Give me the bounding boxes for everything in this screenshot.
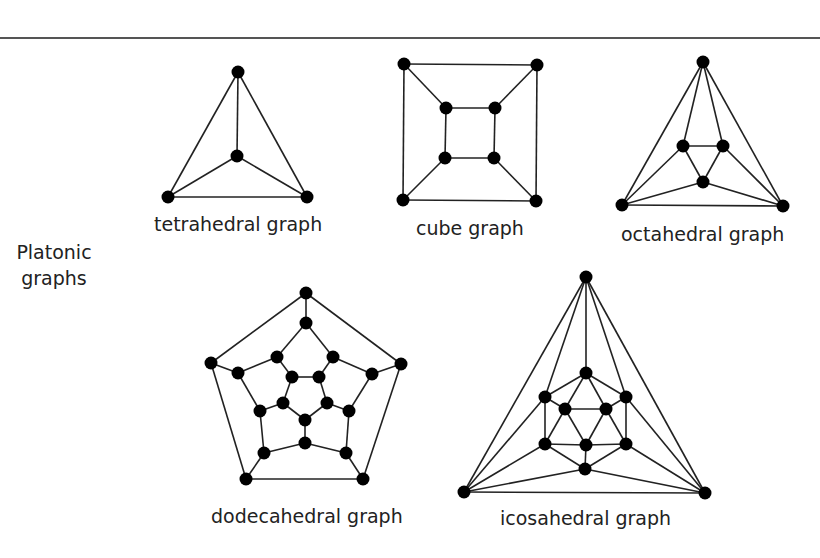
cube-graph-label: cube graph <box>416 217 524 239</box>
graph-node <box>580 367 593 380</box>
graph-node <box>699 487 712 500</box>
graph-edge <box>494 158 536 201</box>
graph-edge <box>494 108 495 158</box>
icosahedral-graph-label: icosahedral graph <box>500 507 671 529</box>
graph-edge <box>238 373 260 411</box>
graph-edge <box>586 277 626 397</box>
octahedral-graph <box>616 56 790 213</box>
graph-node <box>162 191 175 204</box>
graph-node <box>340 447 353 460</box>
graph-edge <box>211 363 246 479</box>
graph-edge <box>703 62 723 146</box>
graph-node <box>539 438 552 451</box>
graph-edge <box>404 64 537 65</box>
graph-edge <box>622 62 703 205</box>
graph-node <box>439 152 452 165</box>
graph-edge <box>363 364 401 479</box>
graph-edge <box>277 323 306 357</box>
graph-edge <box>403 158 445 200</box>
graph-edge <box>495 65 537 108</box>
graph-node <box>717 140 730 153</box>
graph-node <box>205 357 218 370</box>
graph-node <box>343 405 356 418</box>
graph-edge <box>545 444 585 469</box>
graph-edge <box>683 62 703 146</box>
graph-node <box>440 102 453 115</box>
graph-node <box>616 199 629 212</box>
graph-node <box>232 367 245 380</box>
graph-edge <box>464 492 705 493</box>
graph-node <box>300 317 313 330</box>
graph-node <box>395 358 408 371</box>
graph-node <box>488 152 501 165</box>
graph-edge <box>238 72 307 197</box>
graph-node <box>579 463 592 476</box>
graph-node <box>299 437 312 450</box>
graph-edge <box>703 62 783 206</box>
graph-edge <box>211 293 306 363</box>
graph-edge <box>349 374 372 411</box>
graph-edge <box>445 108 446 158</box>
graph-node <box>489 102 502 115</box>
graph-node <box>600 403 613 416</box>
graph-edge <box>168 72 238 197</box>
graph-node <box>300 287 313 300</box>
graph-edge <box>626 397 705 493</box>
graph-node <box>539 391 552 404</box>
graph-node <box>327 351 340 364</box>
graph-node <box>620 438 633 451</box>
dodecahedral-graph-label: dodecahedral graph <box>211 505 403 527</box>
graph-edge <box>536 65 537 201</box>
graph-node <box>231 150 244 163</box>
icosahedral-graph <box>458 271 712 500</box>
graph-node <box>777 200 790 213</box>
tetrahedral-graph <box>162 66 314 204</box>
octahedral-graph-label: octahedral graph <box>621 223 784 245</box>
graph-node <box>620 391 633 404</box>
graph-node <box>357 473 370 486</box>
tetrahedral-graph-label: tetrahedral graph <box>154 213 322 235</box>
graph-node <box>286 371 299 384</box>
graph-node <box>531 59 544 72</box>
graph-node <box>321 397 334 410</box>
graph-node <box>277 397 290 410</box>
graph-node <box>258 447 271 460</box>
graph-edge <box>586 277 705 493</box>
graph-edge <box>464 397 545 492</box>
graph-edge <box>237 72 238 156</box>
graph-edge <box>403 64 404 200</box>
graph-canvas <box>0 0 820 558</box>
graph-node <box>697 56 710 69</box>
graph-node <box>580 271 593 284</box>
graph-node <box>240 473 253 486</box>
dodecahedral-graph <box>205 287 408 486</box>
graph-node <box>232 66 245 79</box>
graph-node <box>458 486 471 499</box>
graph-node <box>366 368 379 381</box>
graph-node <box>677 140 690 153</box>
graph-edge <box>622 205 783 206</box>
cube-graph <box>397 58 544 208</box>
graph-node <box>299 414 312 427</box>
graph-edge <box>404 64 446 108</box>
graph-node <box>397 194 410 207</box>
graph-node <box>313 371 326 384</box>
graph-node <box>398 58 411 71</box>
graph-node <box>697 176 710 189</box>
graph-node <box>530 195 543 208</box>
graph-edge <box>306 323 333 357</box>
graph-node <box>271 351 284 364</box>
graph-node <box>559 403 572 416</box>
graph-edge <box>168 156 237 197</box>
graph-node <box>254 405 267 418</box>
graph-node <box>580 439 593 452</box>
graph-edge <box>403 200 536 201</box>
graph-edge <box>306 293 401 364</box>
graph-node <box>301 191 314 204</box>
